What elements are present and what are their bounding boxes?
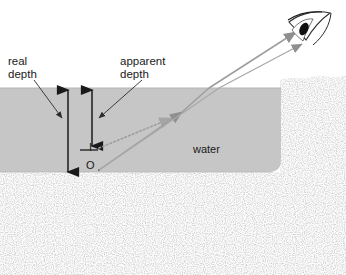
- apparent-depth-label: apparent depth: [120, 55, 165, 80]
- refraction-diagram: [0, 0, 346, 275]
- water-region: [0, 88, 281, 172]
- diagram-canvas: real depth apparent depth water I O: [0, 0, 346, 275]
- real-depth-label: real depth: [8, 55, 37, 80]
- sand-region-right: [280, 76, 346, 176]
- sand-region-bottom: [0, 172, 346, 275]
- water-label: water: [193, 143, 220, 156]
- object-point-label: O: [86, 159, 95, 172]
- image-point-label: I: [89, 141, 92, 154]
